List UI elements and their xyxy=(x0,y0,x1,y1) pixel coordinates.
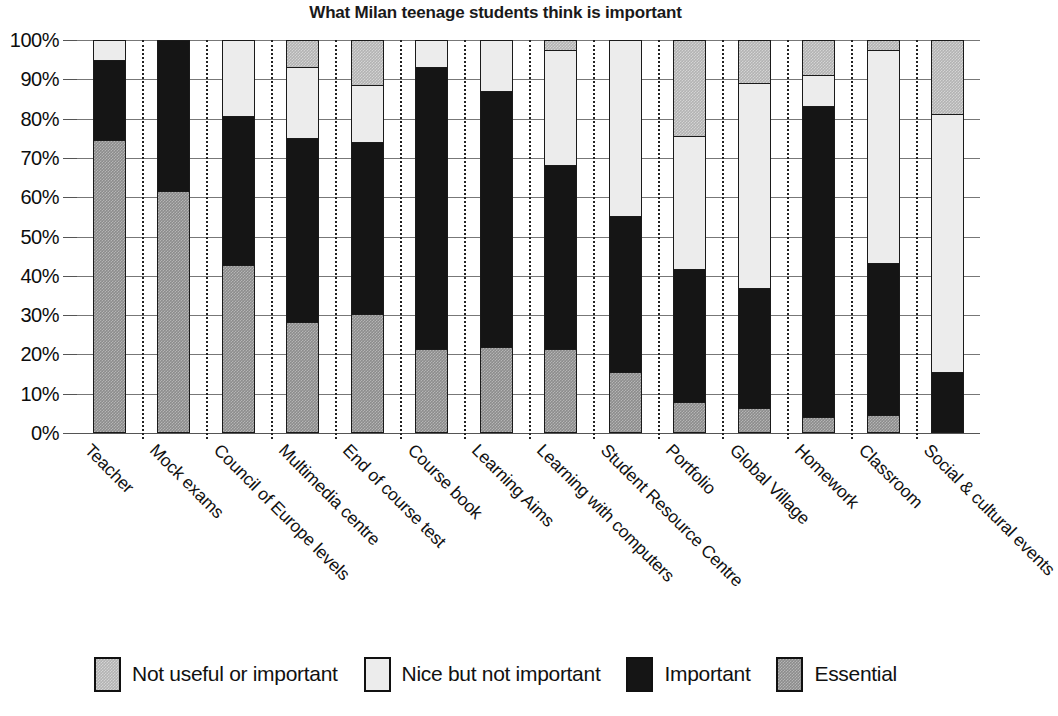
bar-segment-important xyxy=(352,143,383,315)
bar-segment-nice-but-not-important xyxy=(352,86,383,143)
bar-learning-with-computers[interactable] xyxy=(544,40,577,433)
category-separator xyxy=(335,40,337,439)
bar-segment-essential xyxy=(223,266,254,432)
category-separator xyxy=(529,40,531,439)
bar-segment-nice-but-not-important xyxy=(610,41,641,217)
y-tick-100 xyxy=(63,40,77,41)
legend-swatch-essential xyxy=(776,657,803,692)
chart-legend: Not useful or importantNice but not impo… xyxy=(0,652,991,696)
legend-item[interactable]: Essential xyxy=(776,657,897,692)
bar-council-of-europe-levels[interactable] xyxy=(222,40,255,433)
legend-item[interactable]: Important xyxy=(626,657,750,692)
bar-portfolio[interactable] xyxy=(673,40,706,433)
bar-teacher[interactable] xyxy=(93,40,126,433)
bar-mock-exams[interactable] xyxy=(157,40,190,433)
bar-global-village[interactable] xyxy=(738,40,771,433)
y-tick-80 xyxy=(63,119,77,120)
bar-segment-not-useful-or-important xyxy=(868,41,899,51)
bar-end-of-course-test[interactable] xyxy=(351,40,384,433)
bar-segment-important xyxy=(610,217,641,373)
legend-label: Not useful or important xyxy=(132,662,338,686)
y-tick-40 xyxy=(63,276,77,277)
category-separator xyxy=(916,40,918,439)
legend-item[interactable]: Not useful or important xyxy=(94,657,338,692)
bar-segment-essential xyxy=(674,403,705,432)
bar-segment-important xyxy=(158,41,189,192)
bar-segment-not-useful-or-important xyxy=(352,41,383,86)
bar-segment-nice-but-not-important xyxy=(932,115,963,373)
bar-segment-essential xyxy=(610,373,641,432)
y-tick-label: 70% xyxy=(20,146,59,169)
bar-segment-essential xyxy=(868,416,899,432)
bar-segment-essential xyxy=(739,409,770,432)
category-separator xyxy=(658,40,660,439)
y-tick-60 xyxy=(63,197,77,198)
bar-segment-nice-but-not-important xyxy=(94,41,125,61)
category-separator xyxy=(787,40,789,439)
bar-segment-not-useful-or-important xyxy=(545,41,576,51)
legend-item[interactable]: Nice but not important xyxy=(364,657,601,692)
legend-label: Important xyxy=(664,662,750,686)
bar-segment-important xyxy=(739,289,770,408)
bar-segment-nice-but-not-important xyxy=(803,76,834,107)
y-tick-label: 20% xyxy=(20,343,59,366)
bar-segment-essential xyxy=(352,315,383,432)
y-tick-30 xyxy=(63,315,77,316)
y-axis: 0%10%20%30%40%50%60%70%80%90%100% xyxy=(0,40,77,433)
x-label-social-cultural-events: Social & cultural events xyxy=(919,440,1058,580)
bar-classroom[interactable] xyxy=(867,40,900,433)
category-separator xyxy=(851,40,853,439)
bar-segment-important xyxy=(416,68,447,350)
bar-segment-not-useful-or-important xyxy=(674,41,705,137)
y-tick-label: 10% xyxy=(20,382,59,405)
legend-swatch-nice xyxy=(364,657,391,692)
x-label-portfolio: Portfolio xyxy=(661,440,720,499)
y-tick-label: 30% xyxy=(20,304,59,327)
y-tick-90 xyxy=(63,79,77,80)
bar-segment-nice-but-not-important xyxy=(739,84,770,289)
category-separator xyxy=(593,40,595,439)
y-tick-70 xyxy=(63,158,77,159)
bar-segment-important xyxy=(287,139,318,323)
bar-segment-nice-but-not-important xyxy=(481,41,512,92)
category-separator xyxy=(464,40,466,439)
bar-course-book[interactable] xyxy=(415,40,448,433)
bar-segment-important xyxy=(803,107,834,418)
x-axis-labels: TeacherMock examsCouncil of Europe level… xyxy=(77,440,991,630)
bar-segment-essential xyxy=(416,350,447,432)
x-label-teacher: Teacher xyxy=(80,440,138,498)
bar-segment-not-useful-or-important xyxy=(803,41,834,76)
bar-segment-nice-but-not-important xyxy=(287,68,318,138)
category-separator xyxy=(142,40,144,439)
bar-segment-important xyxy=(674,270,705,403)
y-tick-label: 100% xyxy=(10,29,59,52)
legend-swatch-notuseful xyxy=(94,657,121,692)
bar-segment-essential xyxy=(803,418,834,432)
y-tick-label: 40% xyxy=(20,264,59,287)
bar-segment-not-useful-or-important xyxy=(739,41,770,84)
bar-segment-important xyxy=(94,61,125,141)
bar-multimedia-centre[interactable] xyxy=(286,40,319,433)
bar-homework[interactable] xyxy=(802,40,835,433)
bar-segment-important xyxy=(545,166,576,350)
bar-learning-aims[interactable] xyxy=(480,40,513,433)
category-separator xyxy=(722,40,724,439)
bar-segment-important xyxy=(223,117,254,266)
y-tick-label: 90% xyxy=(20,68,59,91)
bar-segment-essential xyxy=(481,348,512,432)
y-tick-20 xyxy=(63,354,77,355)
legend-swatch-important xyxy=(626,657,653,692)
plot-area xyxy=(77,40,980,433)
bar-segment-important xyxy=(481,92,512,348)
y-tick-label: 60% xyxy=(20,186,59,209)
x-label-classroom: Classroom xyxy=(854,440,927,513)
bar-segment-nice-but-not-important xyxy=(674,137,705,270)
bar-segment-essential xyxy=(287,323,318,432)
legend-label: Essential xyxy=(814,662,897,686)
bar-segment-not-useful-or-important xyxy=(287,41,318,68)
chart-title: What Milan teenage students think is imp… xyxy=(0,3,991,23)
bar-student-resource-centre[interactable] xyxy=(609,40,642,433)
bar-social-cultural-events[interactable] xyxy=(931,40,964,433)
bar-segment-nice-but-not-important xyxy=(223,41,254,117)
bar-segment-essential xyxy=(94,141,125,432)
